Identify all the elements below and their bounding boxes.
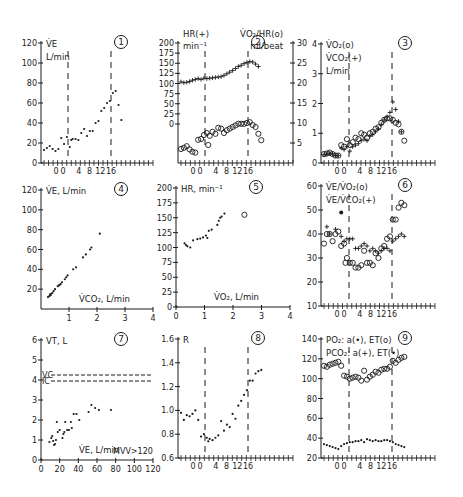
data-point <box>254 372 256 374</box>
x-tick-label: 120 <box>145 465 160 474</box>
y-tick-label: 75 <box>162 258 172 267</box>
data-point <box>196 76 200 80</box>
data-point <box>71 427 73 429</box>
x-tick-label: 16 <box>243 462 253 471</box>
x-tick-label: 8 <box>224 167 229 176</box>
data-point <box>256 131 261 136</box>
data-point <box>64 278 66 280</box>
y-axis-title: min⁻¹ <box>183 41 207 51</box>
data-point <box>67 274 69 276</box>
series-ve-vs-vco2 <box>47 233 101 299</box>
series-vco2 <box>322 100 404 158</box>
data-point <box>186 414 188 416</box>
data-point <box>72 268 74 270</box>
data-point <box>46 147 48 149</box>
y-tick-label: 4 <box>312 40 317 49</box>
data-point <box>194 409 196 411</box>
y-tick-label: 200 <box>159 39 174 48</box>
data-point <box>206 142 211 147</box>
data-point <box>66 136 68 138</box>
y-tick-label: 2 <box>32 416 37 425</box>
data-point <box>352 441 354 443</box>
y-tick-label: 120 <box>22 39 37 48</box>
data-point <box>115 90 117 92</box>
data-point <box>345 144 349 148</box>
panel-number: 8 <box>255 333 261 343</box>
right-y-tick-label: 10 <box>297 119 307 128</box>
data-point <box>376 251 380 255</box>
data-point <box>348 149 352 153</box>
data-point <box>218 220 220 222</box>
data-point <box>220 420 222 422</box>
y-tick-label: 4 <box>32 376 37 385</box>
reference-label: IC <box>42 377 50 386</box>
x-tick-label: 12 <box>232 462 242 471</box>
x-tick-label: 0 <box>190 167 195 176</box>
data-point <box>199 237 201 239</box>
y-tick-label: 40 <box>307 230 317 239</box>
data-point <box>50 294 52 296</box>
data-point <box>349 441 351 443</box>
panel-number: 5 <box>253 182 259 192</box>
data-point <box>388 249 392 253</box>
data-point <box>334 447 336 449</box>
y-tick-label: 0 <box>312 159 317 168</box>
data-point <box>51 435 53 437</box>
x-tick-label: 8 <box>368 462 373 471</box>
data-point <box>233 66 237 70</box>
data-point <box>88 411 90 413</box>
y-axis-title: VT, L <box>46 336 67 346</box>
data-point <box>354 440 356 442</box>
data-point <box>337 448 339 450</box>
data-point <box>89 130 91 132</box>
data-point <box>326 444 328 446</box>
x-tick-label: 4 <box>76 167 81 176</box>
data-point <box>49 145 51 147</box>
data-point <box>98 409 100 411</box>
data-point <box>208 230 210 232</box>
y-axis-title: HR, min⁻¹ <box>181 184 223 194</box>
data-point <box>50 437 52 439</box>
data-point <box>63 143 65 145</box>
y-tick-label: 0 <box>32 159 37 168</box>
data-point <box>211 439 213 441</box>
data-point <box>207 440 209 442</box>
data-point <box>209 438 211 440</box>
y-tick-label: 120 <box>302 355 317 364</box>
data-point <box>232 413 234 415</box>
data-point <box>100 110 102 112</box>
y-axis-title: HR(+) <box>183 29 209 39</box>
y-axis-title: V̇E/V̇O₂(o) <box>326 181 368 192</box>
data-point <box>357 440 359 442</box>
y-tick-label: 140 <box>302 335 317 344</box>
data-point <box>402 138 407 143</box>
data-point <box>97 120 99 122</box>
data-point <box>206 437 208 439</box>
panel-2: 0255075100125150175200004812165101520253… <box>159 28 307 176</box>
data-point <box>344 255 349 260</box>
x-tick-label: 3 <box>122 314 127 323</box>
panel-number: 6 <box>402 180 408 190</box>
data-point <box>51 292 53 294</box>
x-tick-label: 1 <box>66 314 71 323</box>
x-axis-title: V̇O₂, L/min <box>214 291 259 302</box>
y-tick-label: 6 <box>32 336 37 345</box>
data-point <box>366 438 368 440</box>
y-tick-label: 3 <box>312 70 317 79</box>
series-vt-vs-ve <box>48 404 112 446</box>
data-point <box>350 237 354 241</box>
data-point <box>402 234 406 238</box>
data-point <box>259 138 264 143</box>
y-tick-label: 100 <box>22 206 37 215</box>
data-point <box>54 288 56 290</box>
y-tick-label: 1.4 <box>161 359 174 368</box>
x-tick-label: 0 <box>334 167 339 176</box>
x-tick-label: 40 <box>73 465 83 474</box>
data-point <box>85 253 87 255</box>
data-point <box>57 148 59 150</box>
data-point <box>362 248 367 253</box>
x-tick-label: 12 <box>95 167 105 176</box>
data-point <box>386 439 388 441</box>
data-point <box>200 435 202 437</box>
data-point <box>189 415 191 417</box>
